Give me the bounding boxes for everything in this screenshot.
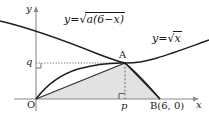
guide-label-p: p	[121, 101, 127, 111]
equation-left-lhs-group: y=√a(6−x)	[64, 14, 125, 25]
equation-label-right-curve: y=√x	[152, 33, 182, 44]
guide-label-q: q	[26, 57, 32, 67]
equation-right-lhs-group: y=√x	[152, 33, 182, 44]
equation-left-radicand: a(6−x)	[85, 12, 125, 26]
q-right-angle-mark	[36, 63, 41, 68]
math-figure: y=√a(6−x) y=√x A q p O B(6, 0) x y	[0, 0, 209, 119]
point-a-marker	[124, 62, 126, 64]
origin-label: O	[27, 100, 35, 110]
point-label-b: B(6, 0)	[150, 101, 184, 111]
y-axis-label: y	[26, 4, 32, 14]
x-axis-label: x	[196, 100, 202, 110]
equation-right-radicand: x	[173, 31, 181, 45]
y-axis-arrowhead	[34, 6, 39, 12]
equation-label-left-curve: y=√a(6−x)	[64, 14, 125, 25]
point-label-a: A	[119, 50, 126, 60]
